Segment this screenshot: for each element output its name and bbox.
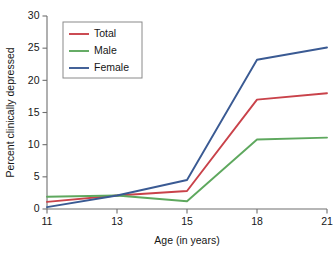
y-tick-label-10: 10 <box>28 138 40 150</box>
y-tick-label-25: 25 <box>28 41 40 53</box>
y-axis: 051015202530 <box>28 9 47 214</box>
y-tick-label-30: 30 <box>28 9 40 21</box>
legend-label-total: Total <box>94 27 116 39</box>
chart-legend: TotalMaleFemale <box>63 22 142 78</box>
depression-by-age-line-chart: 051015202530 1113151821 Percent clinical… <box>0 0 335 261</box>
x-axis-title: Age (in years) <box>154 234 219 246</box>
y-tick-label-5: 5 <box>34 170 40 182</box>
y-tick-label-0: 0 <box>34 202 40 214</box>
y-tick-label-20: 20 <box>28 74 40 86</box>
x-axis: 1113151821 <box>42 209 333 227</box>
series-line-total <box>47 93 327 202</box>
y-axis-title: Percent clinically depressed <box>4 47 16 177</box>
x-tick-label-21: 21 <box>321 215 333 227</box>
x-tick-label-13: 13 <box>111 215 123 227</box>
chart-canvas: 051015202530 1113151821 Percent clinical… <box>0 0 335 261</box>
legend-label-female: Female <box>94 61 129 73</box>
legend-label-male: Male <box>94 44 117 56</box>
x-tick-label-11: 11 <box>42 215 53 227</box>
y-tick-label-15: 15 <box>28 106 40 118</box>
x-tick-label-18: 18 <box>251 215 263 227</box>
x-tick-label-15: 15 <box>181 215 193 227</box>
